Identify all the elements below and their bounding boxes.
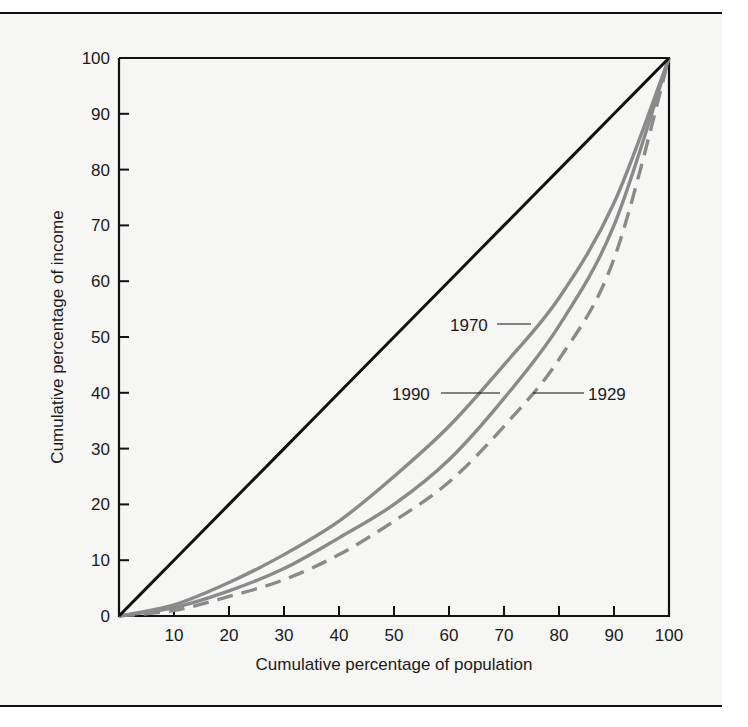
y-axis-label: Cumulative percentage of income bbox=[48, 210, 67, 463]
x-tick-label: 40 bbox=[330, 626, 349, 645]
x-tick-label: 100 bbox=[655, 626, 683, 645]
y-tick-label: 50 bbox=[91, 328, 110, 347]
x-tick-label: 30 bbox=[275, 626, 294, 645]
x-tick-label: 70 bbox=[495, 626, 514, 645]
y-tick-label: 40 bbox=[91, 384, 110, 403]
x-tick-label: 50 bbox=[385, 626, 404, 645]
label-1929: 1929 bbox=[588, 385, 626, 404]
x-tick-label: 10 bbox=[165, 626, 184, 645]
series-line-of-equality bbox=[119, 58, 669, 616]
x-axis-ticks: 102030405060708090100 bbox=[165, 606, 684, 645]
y-tick-label: 90 bbox=[91, 105, 110, 124]
x-tick-label: 80 bbox=[550, 626, 569, 645]
x-tick-label: 60 bbox=[440, 626, 459, 645]
y-tick-label: 60 bbox=[91, 272, 110, 291]
y-tick-label: 30 bbox=[91, 440, 110, 459]
y-tick-label: 80 bbox=[91, 161, 110, 180]
y-tick-label: 70 bbox=[91, 216, 110, 235]
y-tick-label: 0 bbox=[101, 607, 110, 626]
x-tick-label: 20 bbox=[220, 626, 239, 645]
label-1970: 1970 bbox=[450, 316, 488, 335]
lorenz-chart: 0102030405060708090100 10203040506070809… bbox=[0, 0, 748, 727]
x-axis-label: Cumulative percentage of population bbox=[256, 655, 533, 674]
series-layer bbox=[119, 58, 669, 616]
y-axis-ticks: 0102030405060708090100 bbox=[82, 49, 129, 626]
y-tick-label: 10 bbox=[91, 551, 110, 570]
figure: 0102030405060708090100 10203040506070809… bbox=[0, 0, 748, 727]
x-tick-label: 90 bbox=[605, 626, 624, 645]
label-1990: 1990 bbox=[392, 385, 430, 404]
y-tick-label: 20 bbox=[91, 495, 110, 514]
y-tick-label: 100 bbox=[82, 49, 110, 68]
